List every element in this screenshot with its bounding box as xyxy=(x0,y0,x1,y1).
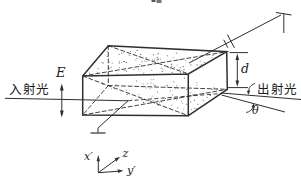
incident-ray-line xyxy=(5,98,128,101)
box-solid-edges xyxy=(83,46,228,116)
axis-z-label: z xyxy=(123,148,129,159)
axis-z-line xyxy=(98,159,116,172)
bottom-electrode-wire xyxy=(91,101,129,133)
interior-diagonals xyxy=(83,76,228,116)
cropped-caption-fragment xyxy=(152,0,162,3)
d-arrowhead-up xyxy=(236,54,240,60)
battery-symbol xyxy=(224,35,235,48)
axis-y-label: y′ xyxy=(127,165,136,176)
coordinate-axes xyxy=(97,155,124,173)
axis-y-line xyxy=(98,171,118,173)
exit-label-arrowhead xyxy=(247,91,251,95)
deflection-angle-label: θ xyxy=(252,105,259,116)
e-arrowhead-up xyxy=(60,84,64,91)
crystal-box xyxy=(83,46,228,116)
axis-y-arrowhead xyxy=(118,169,124,173)
exit-label-arrow-curve xyxy=(249,84,255,92)
e-field-label: E xyxy=(56,66,66,79)
axis-x-arrowhead xyxy=(97,155,100,161)
top-electrode-wire xyxy=(189,13,292,64)
incident-light-label: 入射光 xyxy=(9,84,50,97)
e-field-arrow xyxy=(60,84,64,118)
bottom-terminal xyxy=(91,128,106,133)
thickness-label: d xyxy=(241,63,249,76)
axis-x-label: x′ xyxy=(84,151,93,162)
exit-light-label: 出射光 xyxy=(257,84,298,97)
top-terminal xyxy=(276,13,292,34)
figure-canvas: 入射光 出射光 E d θ x′ z y′ xyxy=(0,0,301,193)
d-arrowhead-down xyxy=(236,81,240,87)
e-arrowhead-down xyxy=(60,111,64,118)
